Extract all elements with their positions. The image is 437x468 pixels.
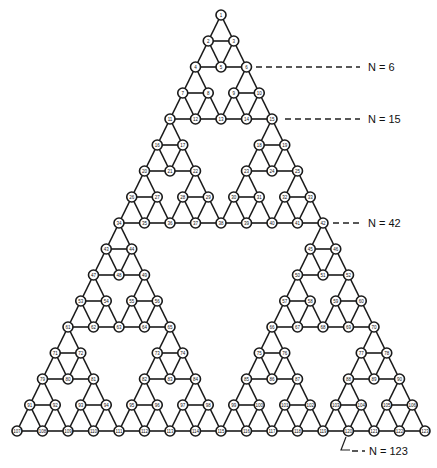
- node-label: 11: [168, 117, 173, 122]
- node: 44: [127, 244, 137, 254]
- node-label: 83: [167, 377, 173, 382]
- node: 11: [165, 114, 175, 124]
- node-label: 123: [421, 429, 429, 434]
- node-label: 91: [27, 403, 33, 408]
- node: 106: [407, 400, 417, 410]
- node-label: 48: [116, 273, 122, 278]
- node-label: 84: [193, 377, 199, 382]
- node: 113: [165, 426, 175, 436]
- node: 78: [382, 348, 392, 358]
- node-label: 36: [167, 221, 173, 226]
- node-label: 22: [193, 169, 199, 174]
- node: 81: [89, 374, 99, 384]
- node-label: 50: [295, 273, 301, 278]
- node-label: 78: [384, 351, 390, 356]
- node: 102: [305, 400, 315, 410]
- node: 114: [191, 426, 201, 436]
- sierpinski-graph: N = 6N = 15N = 42N = 123 123456789101112…: [0, 0, 437, 468]
- node: 39: [242, 218, 252, 228]
- node-label: 108: [39, 429, 47, 434]
- annotation-label: N = 6: [368, 61, 395, 73]
- node-label: 60: [359, 299, 365, 304]
- node-label: 115: [217, 429, 225, 434]
- node-label: 65: [167, 325, 173, 330]
- node: 64: [140, 322, 150, 332]
- node-label: 74: [180, 351, 186, 356]
- node: 60: [356, 296, 366, 306]
- node-label: 44: [129, 247, 135, 252]
- annotation-label: N = 15: [368, 113, 401, 125]
- node-label: 34: [116, 221, 122, 226]
- node-label: 82: [142, 377, 148, 382]
- node-label: 89: [371, 377, 377, 382]
- node: 13: [216, 114, 226, 124]
- node: 18: [254, 140, 264, 150]
- node-label: 93: [78, 403, 84, 408]
- node-label: 57: [282, 299, 288, 304]
- node-label: 109: [64, 429, 72, 434]
- node: 57: [280, 296, 290, 306]
- node-label: 107: [13, 429, 21, 434]
- node: 45: [305, 244, 315, 254]
- node-label: 46: [333, 247, 339, 252]
- node: 50: [293, 270, 303, 280]
- node: 95: [127, 400, 137, 410]
- node-label: 40: [269, 221, 275, 226]
- node: 91: [25, 400, 35, 410]
- node: 69: [344, 322, 354, 332]
- node-label: 23: [244, 169, 250, 174]
- node-label: 64: [142, 325, 148, 330]
- node-label: 120: [345, 429, 353, 434]
- node-label: 96: [155, 403, 161, 408]
- node: 68: [318, 322, 328, 332]
- node: 35: [140, 218, 150, 228]
- node: 96: [152, 400, 162, 410]
- node: 71: [50, 348, 60, 358]
- node: 92: [50, 400, 60, 410]
- node: 66: [267, 322, 277, 332]
- node: 117: [267, 426, 277, 436]
- node: 101: [280, 400, 290, 410]
- node: 56: [152, 296, 162, 306]
- node-label: 53: [78, 299, 84, 304]
- node: 110: [89, 426, 99, 436]
- node: 37: [191, 218, 201, 228]
- node-label: 51: [320, 273, 326, 278]
- node: 80: [63, 374, 73, 384]
- node-label: 56: [155, 299, 161, 304]
- node-label: 100: [255, 403, 263, 408]
- node-label: 95: [129, 403, 135, 408]
- node-label: 86: [269, 377, 275, 382]
- node-label: 62: [91, 325, 97, 330]
- node: 2: [203, 36, 213, 46]
- node-label: 70: [371, 325, 377, 330]
- node: 59: [331, 296, 341, 306]
- node-label: 121: [370, 429, 378, 434]
- node: 85: [242, 374, 252, 384]
- node: 97: [178, 400, 188, 410]
- node: 31: [254, 192, 264, 202]
- node-label: 90: [397, 377, 403, 382]
- node: 82: [140, 374, 150, 384]
- node: 94: [101, 400, 111, 410]
- node: 61: [63, 322, 73, 332]
- node: 38: [216, 218, 226, 228]
- node: 76: [280, 348, 290, 358]
- annotation-leader: [341, 437, 350, 450]
- annotations: N = 6N = 15N = 42N = 123: [256, 61, 408, 457]
- node: 8: [203, 88, 213, 98]
- node: 3: [229, 36, 239, 46]
- node-label: 16: [155, 143, 161, 148]
- node: 53: [76, 296, 86, 306]
- node-label: 49: [142, 273, 148, 278]
- node-label: 17: [180, 143, 186, 148]
- node-label: 28: [180, 195, 186, 200]
- node: 54: [101, 296, 111, 306]
- node: 32: [280, 192, 290, 202]
- node: 74: [178, 348, 188, 358]
- node: 5: [216, 62, 226, 72]
- node-label: 35: [142, 221, 148, 226]
- node: 20: [140, 166, 150, 176]
- node: 112: [140, 426, 150, 436]
- node-label: 113: [166, 429, 174, 434]
